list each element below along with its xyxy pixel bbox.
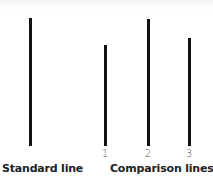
top-shading	[0, 0, 213, 10]
comparison-line-1-number: 1	[99, 148, 111, 159]
standard-line	[29, 18, 32, 146]
comparison-line-2	[147, 19, 150, 146]
comparison-line-3	[188, 38, 191, 146]
standard-line-label: Standard line	[2, 162, 83, 175]
comparison-line-3-number: 3	[183, 148, 195, 159]
comparison-line-1	[104, 45, 107, 146]
comparison-lines-label: Comparison lines	[110, 162, 213, 175]
comparison-line-2-number: 2	[142, 148, 154, 159]
